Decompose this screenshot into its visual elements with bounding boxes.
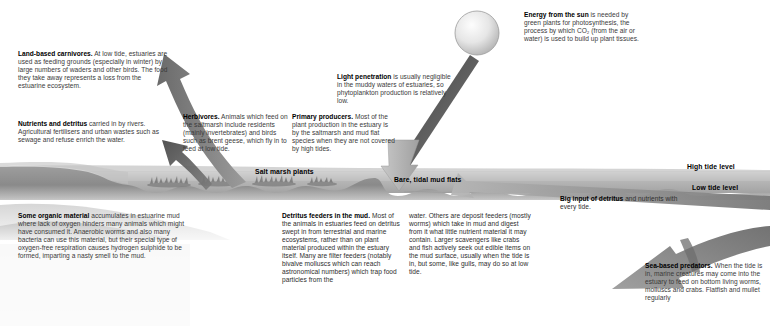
note-body: water. Others are deposit feeders (mostl…: [409, 212, 531, 275]
note-detritus-feeders-in-the-mud: Detritus feeders in the mud. Most of the…: [282, 212, 404, 284]
estuary-ecosystem-diagram: Salt marsh plants Bare, tidal mud flats …: [0, 0, 770, 326]
note-heading: Primary producers.: [292, 113, 353, 120]
note-sea-based-predators: Sea-based predators. When the tide is in…: [645, 262, 769, 302]
note-some-organic-material: Some organic material accumulates in est…: [18, 212, 190, 260]
note-primary-producers: Primary producers. Most of the plant pro…: [292, 113, 395, 153]
note-herbivores: Herbivores. Animals which feed on the sa…: [183, 113, 288, 153]
note-detritus-feeders-continued: water. Others are deposit feeders (mostl…: [409, 212, 531, 276]
note-heading: Herbivores.: [183, 113, 220, 120]
note-land-based-carnivores: Land-based carnivores. At low tide, estu…: [18, 50, 170, 90]
note-big-input-of-detritus: Big input of detritus and nutrients with…: [560, 195, 688, 211]
label-bare-tidal-mud-flats: Bare, tidal mud flats: [394, 176, 461, 183]
note-heading: Nutrients and detritus: [18, 120, 87, 127]
sun-icon: [455, 11, 499, 55]
note-heading: Sea-based predators.: [645, 262, 713, 269]
note-heading: Land-based carnivores.: [18, 50, 93, 57]
note-nutrients-and-detritus: Nutrients and detritus carried in by riv…: [18, 120, 170, 144]
note-heading: Energy from the sun: [524, 11, 589, 18]
note-light-penetration: Light penetration is usually negligible …: [337, 73, 455, 105]
label-high-tide-level: High tide level: [687, 163, 735, 170]
note-body: Most of the animals in estuaries feed on…: [282, 212, 400, 283]
note-heading: Detritus feeders in the mud.: [282, 212, 370, 219]
label-low-tide-level: Low tide level: [692, 184, 738, 191]
note-energy-from-the-sun: Energy from the sun is needed by green p…: [524, 11, 644, 43]
note-heading: Light penetration: [337, 73, 391, 80]
note-heading: Big input of detritus: [560, 195, 623, 202]
label-salt-marsh-plants: Salt marsh plants: [255, 168, 314, 175]
note-body: accumulates in estuarine mud where lack …: [18, 212, 184, 259]
note-heading: Some organic material: [18, 212, 89, 219]
